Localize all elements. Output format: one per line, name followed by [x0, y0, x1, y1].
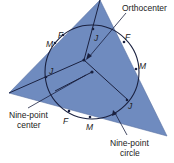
- orthocenter-label: Orthocenter: [122, 3, 167, 13]
- point-M-bottom: [89, 116, 92, 119]
- label-M-top-left: M: [46, 39, 54, 49]
- label-J-left: J: [48, 66, 54, 76]
- label-M-right: M: [139, 61, 147, 71]
- nine-point-circle-label-line1: Nine-point: [110, 138, 149, 148]
- nine-point-circle-diagram: F M J J F M J F M Orthocenter Nine-point…: [0, 0, 174, 163]
- orthocenter-point: [82, 58, 85, 61]
- label-F-right: F: [125, 32, 131, 42]
- point-F-bottom: [68, 110, 71, 113]
- nine-point-circle-label-line2: circle: [120, 148, 140, 158]
- label-M-bottom: M: [86, 122, 94, 132]
- label-J-top: J: [93, 33, 99, 43]
- label-F-bottom: F: [63, 116, 69, 126]
- point-M-top-left: [54, 42, 57, 45]
- point-M-right: [135, 68, 138, 71]
- nine-point-center-point: [90, 70, 93, 73]
- nine-point-center-label-line2: center: [17, 120, 41, 130]
- label-J-right: J: [127, 101, 133, 111]
- point-J-left: [45, 76, 48, 79]
- point-J-top: [92, 28, 95, 31]
- label-F-top-left: F: [58, 30, 64, 40]
- nine-point-center-label-line1: Nine-point: [9, 110, 48, 120]
